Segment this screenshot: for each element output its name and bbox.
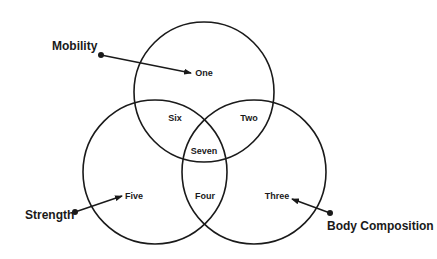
region-label-seven: Seven bbox=[191, 146, 218, 156]
circle-strength bbox=[83, 100, 227, 244]
category-label-strength: Strength bbox=[25, 208, 74, 222]
region-label-one: One bbox=[195, 68, 213, 78]
region-label-five: Five bbox=[125, 191, 143, 201]
arrow-icon-body-composition bbox=[292, 199, 330, 213]
arrow-icon-strength bbox=[75, 196, 122, 212]
venn-diagram: Mobility Strength Body Composition One T… bbox=[0, 0, 437, 259]
category-label-mobility: Mobility bbox=[52, 39, 98, 53]
region-label-six: Six bbox=[168, 113, 182, 123]
region-label-three: Three bbox=[265, 191, 290, 201]
arrow-icon-mobility bbox=[101, 55, 191, 73]
category-label-body-composition: Body Composition bbox=[327, 219, 434, 233]
circle-mobility bbox=[134, 22, 274, 162]
region-label-four: Four bbox=[195, 191, 215, 201]
region-label-two: Two bbox=[240, 113, 258, 123]
